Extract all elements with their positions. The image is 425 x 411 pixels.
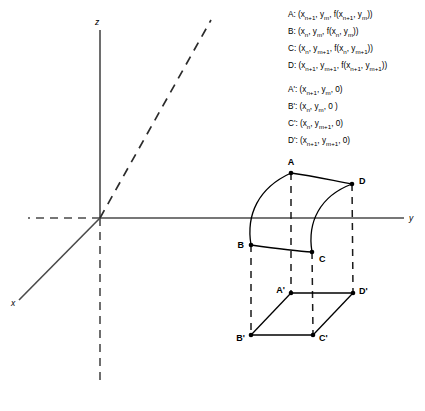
legend-surface-points: A: (xn+1, ym, f(xn+1, ym)) B: (xn, ym, f…	[288, 10, 387, 72]
legend-c-sub2: m+1	[317, 48, 330, 55]
base-edge-ba	[251, 293, 291, 335]
vertex-label-d-proj: D'	[359, 286, 368, 296]
legend-d-sub2: m+1	[324, 65, 337, 72]
legend-dp-sub1: n+1	[307, 140, 318, 147]
vertex-dot-a	[289, 171, 294, 176]
legend-dp-suffix: , 0)	[338, 136, 350, 145]
legend-c-sub4: m+1	[355, 48, 368, 55]
patch-edge-bc	[251, 245, 312, 252]
legend-d-prefix: D: (x	[288, 61, 305, 70]
legend-b-suffix: ))	[353, 27, 359, 36]
z-axis-label: z	[94, 17, 100, 27]
legend-a-suffix: ))	[367, 10, 373, 19]
vertex-dot-a-proj	[289, 291, 294, 296]
legend-row-d: D: (xn+1, ym+1, f(xn+1, ym+1))	[288, 61, 387, 72]
vertex-label-a: A	[288, 157, 295, 167]
legend-row-d-proj: D': (xn+1, ym+1, 0)	[288, 136, 350, 147]
legend-a-prefix: A: (x	[288, 10, 305, 19]
legend-a-mid2: , f(x	[329, 10, 343, 19]
legend-d-sub1: n+1	[305, 65, 316, 72]
legend-ap-sub1: n+1	[306, 89, 317, 96]
vertex-label-d: D	[359, 176, 366, 186]
vertex-label-b: B	[238, 240, 245, 250]
projected-base-group: A' D' C' B'	[236, 285, 367, 343]
x-axis-positive	[19, 218, 100, 300]
legend-ap-prefix: A': (x	[288, 85, 306, 94]
diagram-root: z y x A B C D	[0, 0, 425, 411]
surface-patch-group: A B C D	[238, 157, 367, 264]
legend-dp-sub2: m+1	[326, 140, 339, 147]
legend-dp-prefix: D': (x	[288, 136, 307, 145]
vertex-label-c-proj: C'	[319, 333, 328, 343]
vertex-dot-d-proj	[351, 291, 356, 296]
legend-cp-prefix: C': (x	[288, 119, 307, 128]
vertex-label-a-proj: A'	[276, 285, 285, 295]
drop-line-d	[352, 184, 353, 291]
legend-row-c: C: (xn, ym+1, f(xn, ym+1))	[288, 44, 373, 55]
legend-d-sub4: m+1	[369, 65, 382, 72]
vertex-label-b-proj: B'	[236, 333, 245, 343]
patch-edge-ad	[291, 173, 352, 184]
vertex-label-c: C	[319, 254, 326, 264]
legend-d-sub3: n+1	[350, 65, 361, 72]
vertex-dot-c-proj	[311, 333, 316, 338]
legend-row-b: B: (xn, ym, f(xn, ym))	[288, 27, 359, 38]
x-axis-label: x	[10, 298, 16, 308]
x-axis-negative-dashed	[100, 20, 211, 218]
diagram-canvas: z y x A B C D	[0, 0, 425, 411]
y-axis-label: y	[408, 213, 414, 223]
legend-row-a: A: (xn+1, ym, f(xn+1, ym))	[288, 10, 373, 21]
legend-ap-suffix: , 0)	[331, 85, 343, 94]
legend-d-suffix: ))	[382, 61, 388, 70]
legend-b-mid2: , f(x	[322, 27, 336, 36]
legend-a-sub3: n+1	[343, 14, 354, 21]
legend-d-mid2: , f(x	[337, 61, 351, 70]
vertex-dot-c	[310, 250, 315, 255]
legend-cp-suffix: , 0)	[331, 119, 343, 128]
base-edge-dc	[313, 293, 353, 335]
legend-row-b-proj: B': (xn, ym, 0 )	[288, 102, 338, 113]
legend-row-a-proj: A': (xn+1, ym, 0)	[288, 85, 343, 96]
legend-c-prefix: C: (x	[288, 44, 305, 53]
legend-bp-prefix: B': (x	[288, 102, 306, 111]
patch-edge-ba	[250, 173, 291, 245]
legend-row-c-proj: C': (xn, ym+1, 0)	[288, 119, 343, 130]
legend-b-prefix: B: (x	[288, 27, 305, 36]
legend-c-suffix: ))	[368, 44, 374, 53]
legend-a-sub1: n+1	[305, 14, 316, 21]
vertex-dot-b-proj	[249, 333, 254, 338]
vertex-dot-d	[350, 182, 355, 187]
legend-bp-suffix: , 0 )	[324, 102, 338, 111]
legend-projected-points: A': (xn+1, ym, 0) B': (xn, ym, 0 ) C': (…	[288, 85, 350, 147]
legend-cp-sub2: m+1	[319, 123, 332, 130]
legend-c-mid2: , f(x	[330, 44, 344, 53]
vertex-dot-b	[249, 243, 254, 248]
